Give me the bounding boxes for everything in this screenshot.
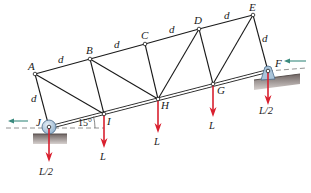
reaction-arrow-j	[8, 119, 28, 124]
bottom-chord-extension	[268, 68, 306, 71]
joint-label-a: A	[27, 60, 35, 72]
load-label-f: L/2	[258, 105, 274, 116]
dim-label-de: d	[224, 9, 230, 21]
dim-label-ab: d	[58, 53, 64, 65]
load-arrow-g	[210, 84, 217, 117]
joint-d	[197, 27, 201, 31]
load-label-g: L	[208, 120, 215, 131]
joint-h	[156, 97, 160, 101]
dim-label-ef: d	[262, 32, 268, 44]
joint-label-d: D	[193, 14, 202, 26]
reaction-arrow-f	[284, 59, 306, 64]
joint-label-g: G	[217, 84, 225, 96]
joint-label-h: H	[160, 99, 170, 111]
dim-label-cd: d	[169, 23, 175, 35]
joint-g	[211, 82, 215, 86]
web-members	[35, 15, 268, 127]
load-label-j: L/2	[38, 166, 54, 177]
joint-label-i: I	[106, 115, 112, 127]
joint-b	[88, 57, 92, 61]
ground-left	[33, 134, 67, 144]
dim-label-aj: d	[31, 92, 37, 104]
joint-j	[47, 125, 51, 129]
dim-label-bc: d	[114, 38, 120, 50]
joint-label-j: J	[36, 116, 42, 128]
load-label-i: L	[99, 151, 106, 162]
angle-arc	[94, 117, 96, 129]
joint-a	[33, 72, 37, 76]
angle-label: 15°	[78, 117, 92, 128]
joint-c	[143, 42, 147, 46]
joint-label-e: E	[248, 1, 256, 13]
joint-label-f: F	[274, 57, 282, 69]
ground-right	[254, 74, 300, 90]
load-label-h: L	[153, 136, 160, 147]
joint-label-c: C	[141, 29, 149, 41]
joint-f	[266, 69, 270, 73]
truss-diagram: 15°	[0, 0, 311, 193]
joint-i	[102, 112, 106, 116]
joint-label-b: B	[86, 44, 93, 56]
joint-e	[251, 13, 255, 17]
